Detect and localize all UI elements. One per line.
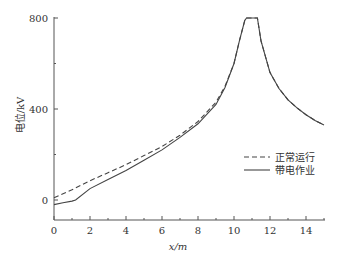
axes: 024681012140400800x/m电位/kV — [14, 13, 325, 253]
y-axis-label: 电位/kV — [14, 96, 26, 133]
legend-label: 带电作业 — [275, 164, 315, 176]
x-tick-label: 0 — [51, 225, 57, 236]
y-tick-label: 400 — [29, 104, 48, 115]
x-tick-label: 8 — [195, 225, 201, 236]
x-axis-label: x/m — [169, 241, 188, 252]
x-tick-label: 12 — [264, 225, 277, 236]
y-tick-label: 0 — [42, 195, 48, 206]
legend-label: 正常运行 — [275, 151, 315, 163]
x-tick-label: 4 — [123, 225, 129, 236]
x-tick-label: 2 — [87, 225, 93, 236]
series-lines — [54, 18, 324, 205]
y-tick-label: 800 — [29, 13, 48, 24]
live-work-line — [54, 18, 324, 205]
potential-chart: 024681012140400800x/m电位/kV 正常运行带电作业 — [0, 0, 341, 265]
x-tick-label: 10 — [228, 225, 241, 236]
x-tick-label: 14 — [300, 225, 313, 236]
x-tick-label: 6 — [159, 225, 165, 236]
legend: 正常运行带电作业 — [244, 151, 315, 176]
